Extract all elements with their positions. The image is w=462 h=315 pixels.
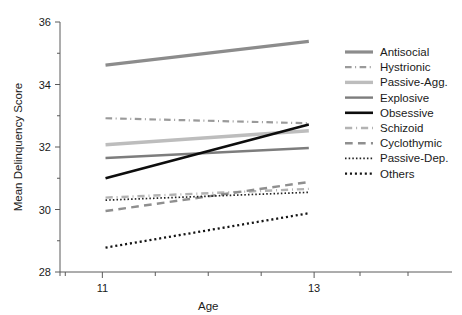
y-tick-label: 36: [39, 16, 51, 28]
x-tick-label: 11: [97, 282, 108, 294]
legend-label-hystrionic: Hystrionic: [380, 61, 431, 73]
series-line-hystrionic: [106, 118, 309, 123]
series-line-others: [106, 213, 309, 247]
legend-group: AntisocialHystrionicPassive-Agg.Explosiv…: [345, 46, 448, 180]
y-tick-label: 28: [39, 266, 51, 278]
legend-label-obsessive: Obsessive: [380, 107, 434, 119]
legend-label-others: Others: [380, 168, 415, 180]
legend-label-passive-agg: Passive-Agg.: [380, 76, 448, 88]
y-tick-label: 34: [39, 79, 51, 91]
legend-label-schizoid: Schizoid: [380, 122, 423, 134]
series-line-antisocial: [106, 41, 309, 65]
x-tick-label: 13: [308, 282, 320, 294]
series-line-explosive: [106, 148, 309, 158]
chart-figure: 28303234361113AgeMean Delinquency Score …: [0, 0, 462, 315]
y-axis-title: Mean Delinquency Score: [12, 83, 24, 212]
legend-label-passive-dep: Passive-Dep.: [380, 152, 448, 164]
legend-label-explosive: Explosive: [380, 92, 429, 104]
series-group: [106, 41, 309, 247]
x-axis-title: Age: [198, 300, 218, 312]
line-chart-canvas: 28303234361113AgeMean Delinquency Score …: [0, 0, 462, 315]
legend-label-antisocial: Antisocial: [380, 46, 429, 58]
series-line-obsessive: [106, 125, 309, 179]
legend-label-cyclothymic: Cyclothymic: [380, 137, 442, 149]
y-tick-label: 30: [39, 204, 51, 216]
series-line-cyclothymic: [106, 182, 309, 211]
y-tick-label: 32: [39, 141, 51, 153]
